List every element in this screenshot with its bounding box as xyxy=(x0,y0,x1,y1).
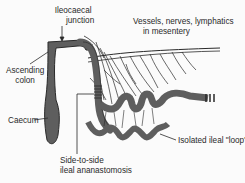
label-ascending-line2: colon xyxy=(6,76,44,86)
label-anastomosis-line2: ileal ananastomosis xyxy=(60,166,132,176)
label-vessels-mesentery: Vessels, nerves, lymphatics in mesentery xyxy=(133,17,234,37)
label-ascending-colon: Ascending colon xyxy=(6,66,44,86)
ascending-colon-caecum xyxy=(45,40,90,144)
label-caecum: Caecum xyxy=(8,116,39,126)
label-vessels-line1: Vessels, nerves, lymphatics xyxy=(133,17,234,27)
label-anastomosis-line1: Side-to-side xyxy=(60,156,132,166)
ileum-continuing xyxy=(100,93,208,109)
label-isolated-ileal-loop: Isolated ileal "loop" xyxy=(178,136,245,146)
label-ascending-line1: Ascending xyxy=(6,66,44,76)
mesentery-border-line xyxy=(88,48,220,58)
label-vessels-line2: in mesentery xyxy=(143,27,234,37)
label-ileocaecal-junction: Ileocaecal junction xyxy=(52,6,94,26)
label-side-to-side-anastomosis: Side-to-side ileal ananastomosis xyxy=(60,156,132,176)
diagram-canvas: Ileocaecal junction Vessels, nerves, lym… xyxy=(0,0,245,183)
isolated-ileal-loop xyxy=(88,122,168,137)
label-ileocaecal-line1: Ileocaecal xyxy=(52,6,94,16)
label-ileocaecal-line2: junction xyxy=(66,16,94,26)
